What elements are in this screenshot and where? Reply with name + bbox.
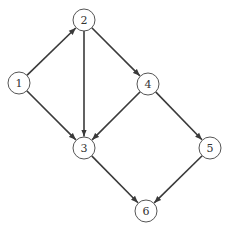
- node-label: 5: [207, 142, 214, 155]
- node-label: 6: [143, 205, 150, 218]
- node-label: 4: [145, 78, 152, 91]
- directed-graph: 123456: [0, 0, 231, 230]
- node-3: 3: [73, 137, 95, 159]
- node-6: 6: [135, 200, 157, 222]
- edge-1-to-2: [27, 28, 76, 75]
- edge-2-to-4: [92, 28, 140, 76]
- edges-layer: [27, 28, 202, 203]
- node-label: 2: [81, 14, 88, 27]
- node-2: 2: [73, 9, 95, 31]
- edge-5-to-6: [154, 156, 202, 203]
- edge-1-to-3: [27, 91, 76, 140]
- node-5: 5: [199, 137, 221, 159]
- edge-4-to-5: [156, 92, 202, 140]
- edge-4-to-3: [92, 92, 140, 140]
- node-label: 3: [81, 142, 88, 155]
- nodes-layer: 123456: [8, 9, 221, 222]
- node-1: 1: [8, 72, 30, 94]
- edge-3-to-6: [92, 156, 138, 203]
- node-4: 4: [137, 73, 159, 95]
- node-label: 1: [16, 77, 23, 90]
